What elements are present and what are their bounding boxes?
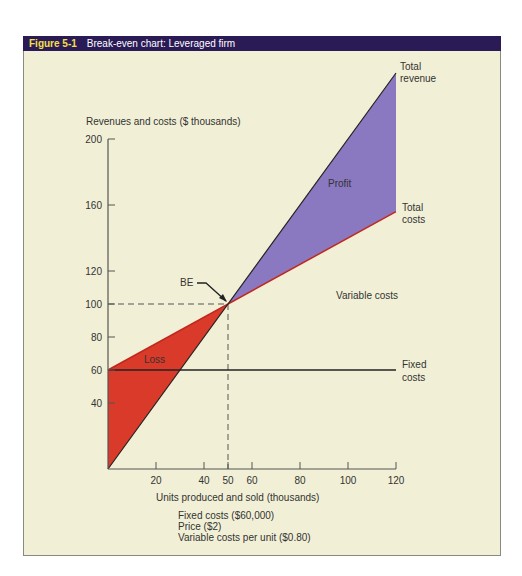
label-profit: Profit	[328, 178, 352, 189]
x-tick-label: 120	[388, 475, 405, 486]
label-total-revenue-1: Total	[400, 61, 421, 72]
x-tick-label: 100	[340, 475, 357, 486]
note-fixed-costs: Fixed costs ($60,000)	[178, 510, 274, 521]
y-tick-label: 120	[85, 266, 102, 277]
x-tick-label: 60	[246, 475, 258, 486]
x-tick-label: 80	[294, 475, 306, 486]
label-total-costs-2: costs	[402, 214, 425, 225]
x-tick-label: 20	[150, 475, 162, 486]
y-tick-label: 40	[91, 398, 103, 409]
note-price: Price ($2)	[178, 521, 221, 532]
label-loss: Loss	[144, 354, 165, 365]
y-tick-label: 80	[91, 332, 103, 343]
y-axis-title: Revenues and costs ($ thousands)	[86, 116, 241, 127]
total-revenue-line	[108, 73, 396, 469]
label-variable-costs: Variable costs	[336, 290, 398, 301]
label-total-costs-1: Total	[402, 202, 423, 213]
label-total-revenue-2: revenue	[400, 73, 437, 84]
note-variable-cost: Variable costs per unit ($0.80)	[178, 532, 311, 543]
y-tick-label: 160	[85, 200, 102, 211]
x-tick-label: 40	[198, 475, 210, 486]
label-fixed-costs-2: costs	[402, 372, 425, 383]
label-fixed-costs-1: Fixed	[402, 359, 426, 370]
label-break-even: BE	[180, 277, 194, 288]
y-tick-label: 200	[85, 134, 102, 145]
break-even-chart: 4060801001201602002040506080100120Revenu…	[0, 0, 522, 576]
x-tick-label: 50	[222, 475, 234, 486]
y-tick-label: 100	[85, 299, 102, 310]
x-axis-title: Units produced and sold (thousands)	[156, 492, 319, 503]
y-tick-label: 60	[91, 365, 103, 376]
